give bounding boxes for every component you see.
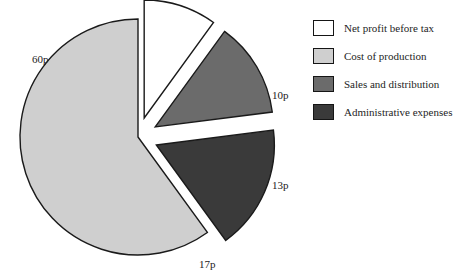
legend-label-administrative-expenses: Administrative expenses <box>344 106 452 119</box>
pie-label-17p: 17p <box>199 258 216 270</box>
chart-legend: Net profit before tax Cost of production… <box>313 14 463 126</box>
pie-slices <box>20 0 274 255</box>
legend-label-sales-and-distribution: Sales and distribution <box>344 78 439 91</box>
legend-swatch-sales-and-distribution <box>313 76 334 92</box>
pie-label-13p: 13p <box>272 179 289 191</box>
legend-swatch-net-profit-before-tax <box>313 20 334 36</box>
legend-swatch-administrative-expenses <box>313 104 334 120</box>
legend-swatch-cost-of-production <box>313 48 334 64</box>
pie-chart-figure: 60p 10p 13p 17p Net profit before tax Co… <box>0 0 465 280</box>
legend-label-cost-of-production: Cost of production <box>344 50 427 63</box>
legend-item-net-profit-before-tax[interactable]: Net profit before tax <box>313 14 463 42</box>
pie-label-10p: 10p <box>272 89 289 101</box>
legend-item-administrative-expenses[interactable]: Administrative expenses <box>313 98 463 126</box>
legend-item-sales-and-distribution[interactable]: Sales and distribution <box>313 70 463 98</box>
legend-label-net-profit-before-tax: Net profit before tax <box>344 22 434 35</box>
pie-label-60p: 60p <box>32 53 49 65</box>
legend-item-cost-of-production[interactable]: Cost of production <box>313 42 463 70</box>
